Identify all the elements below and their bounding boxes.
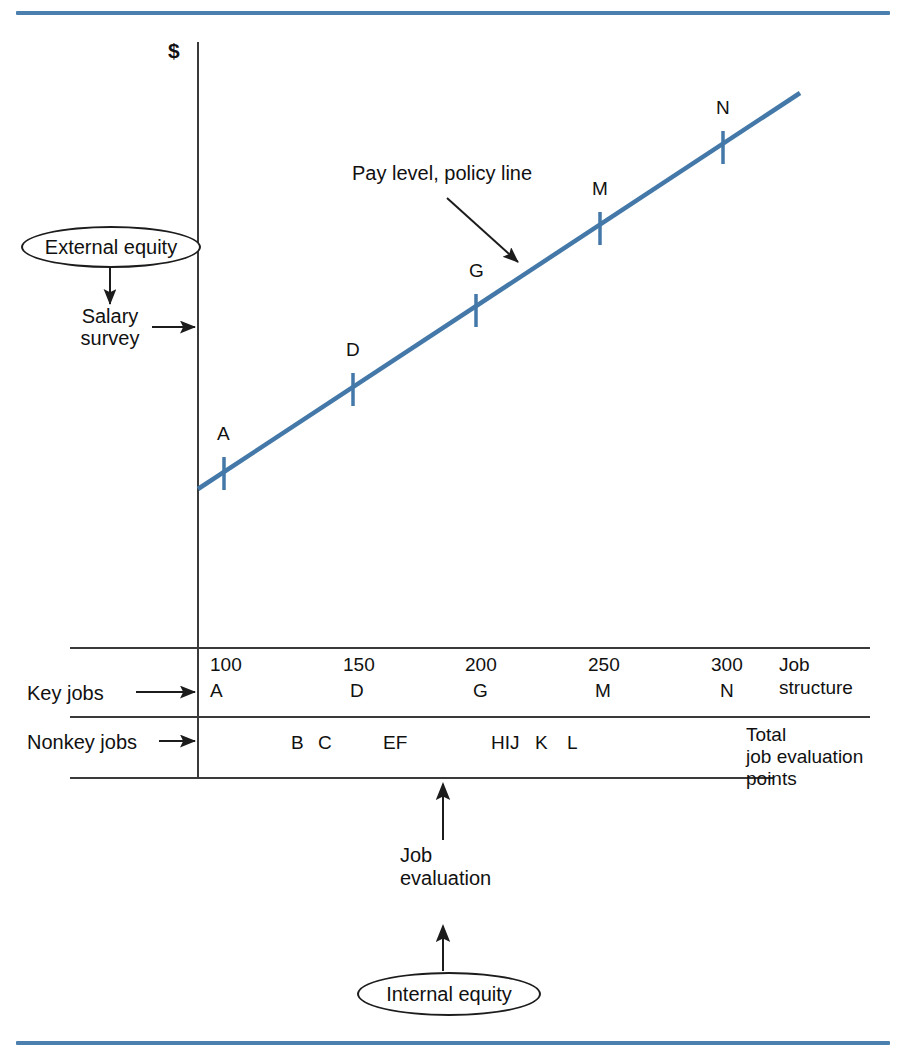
- external-equity-label: External equity: [45, 236, 177, 259]
- nonkey-job-6: L: [567, 733, 578, 754]
- nonkey-job-3: EF: [383, 733, 407, 754]
- y-axis-line: [197, 42, 199, 778]
- bottom-rule: [16, 1041, 890, 1045]
- job-structure-label-line1: Job: [779, 655, 810, 676]
- total-points-label-line1: Total: [746, 725, 786, 746]
- total-points-label-line3: points: [746, 769, 797, 790]
- plot-label-a: A: [217, 424, 230, 445]
- nonkey-job-4: HIJ: [491, 733, 520, 754]
- internal-equity-label: Internal equity: [386, 983, 512, 1006]
- salary-survey-label-line2: survey: [68, 328, 152, 350]
- key-job-3: G: [473, 681, 488, 702]
- plot-label-n: N: [716, 98, 730, 119]
- policy-line-annotation: Pay level, policy line: [352, 163, 532, 185]
- table-rule-top: [70, 647, 870, 649]
- points-value-3: 200: [465, 655, 497, 676]
- job-evaluation-label-line2: evaluation: [400, 868, 491, 890]
- row-label-key-jobs: Key jobs: [27, 683, 104, 705]
- key-job-2: D: [350, 681, 364, 702]
- key-job-4: M: [595, 681, 611, 702]
- diagram-overlay: [0, 0, 904, 1051]
- top-rule: [16, 11, 890, 15]
- points-value-4: 250: [588, 655, 620, 676]
- key-job-1: A: [210, 681, 223, 702]
- plot-label-d: D: [346, 340, 360, 361]
- internal-equity-callout: Internal equity: [357, 972, 541, 1016]
- nonkey-job-2: C: [318, 733, 332, 754]
- nonkey-job-1: B: [291, 733, 304, 754]
- plot-label-g: G: [469, 261, 484, 282]
- job-structure-label-line2: structure: [779, 678, 853, 699]
- nonkey-job-5: K: [535, 733, 548, 754]
- policy-line-pointer-arrow: [447, 198, 518, 262]
- points-value-2: 150: [343, 655, 375, 676]
- points-value-1: 100: [210, 655, 242, 676]
- job-evaluation-label-line1: Job: [400, 845, 432, 867]
- table-rule-middle: [70, 716, 870, 718]
- y-axis-label: $: [168, 40, 180, 63]
- points-value-5: 300: [711, 655, 743, 676]
- total-points-label-line2: job evaluation: [746, 747, 863, 768]
- table-rule-bottom: [70, 777, 773, 779]
- figure-canvas: $: [0, 0, 904, 1051]
- row-label-nonkey-jobs: Nonkey jobs: [27, 732, 137, 754]
- plot-label-m: M: [592, 179, 608, 200]
- policy-line: [198, 93, 800, 489]
- salary-survey-label-line1: Salary: [68, 306, 152, 328]
- key-job-5: N: [720, 681, 734, 702]
- external-equity-callout: External equity: [21, 226, 201, 268]
